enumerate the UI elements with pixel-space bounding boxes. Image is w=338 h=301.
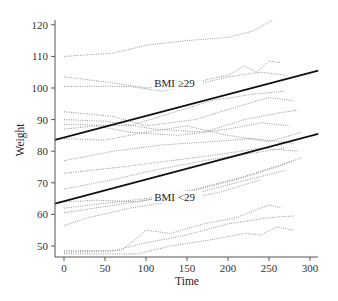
- trajectory-line: [64, 20, 273, 56]
- group-annotation: BMI <29: [154, 191, 195, 203]
- y-tick-label: 90: [37, 114, 49, 126]
- regression-lines: [55, 71, 318, 204]
- x-axis-title: Time: [175, 275, 199, 287]
- y-tick-label: 50: [37, 240, 49, 252]
- x-tick-label: 200: [220, 262, 237, 274]
- weight-vs-time-chart: 5060708090100110120 Weight 0501001502002…: [0, 0, 338, 301]
- group-annotation: BMI ≥29: [154, 77, 195, 89]
- x-tick-label: 150: [179, 262, 196, 274]
- annotations: BMI ≥29BMI <29: [152, 77, 202, 203]
- x-tick-label: 50: [100, 262, 112, 274]
- x-tick-label: 250: [261, 262, 278, 274]
- y-tick-label: 80: [37, 145, 49, 157]
- x-axis: 050100150200250300 Time: [55, 257, 319, 287]
- y-axis-title: Weight: [14, 123, 27, 157]
- y-tick-label: 120: [32, 19, 49, 31]
- x-axis-ticks: 050100150200250300: [61, 257, 319, 274]
- x-tick-label: 300: [302, 262, 319, 274]
- y-tick-label: 60: [37, 208, 49, 220]
- y-tick-label: 70: [37, 177, 49, 189]
- trajectory-line: [64, 216, 294, 252]
- x-tick-label: 0: [61, 262, 67, 274]
- y-axis-ticks: 5060708090100110120: [32, 19, 56, 252]
- x-tick-label: 100: [138, 262, 155, 274]
- subject-trajectories: [64, 20, 302, 254]
- trajectory-line: [64, 98, 294, 126]
- y-tick-label: 100: [32, 82, 49, 94]
- trajectory-line: [64, 205, 281, 251]
- trajectory-line: [64, 148, 285, 189]
- y-tick-label: 110: [32, 50, 49, 62]
- y-axis: 5060708090100110120 Weight: [14, 19, 55, 257]
